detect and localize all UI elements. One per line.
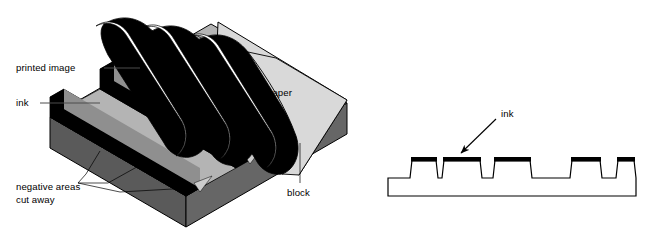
cross-section-ink-cap-4: [571, 157, 601, 162]
label-block: block: [287, 187, 310, 198]
label-ink-left: ink: [16, 97, 29, 108]
cross-section-ink-cap-5: [617, 157, 635, 162]
label-paper: paper: [267, 87, 293, 98]
label-negative-areas-line1: negative areas: [16, 181, 80, 192]
cross-section-ink-cap-3: [494, 157, 531, 162]
label-negative-areas-line2: cut away: [16, 194, 55, 205]
label-printed-image: printed image: [16, 62, 75, 73]
diagram-canvas: Relief printing: inked block transferrin…: [0, 0, 652, 233]
relief-printing-figure: Relief printing: inked block transferrin…: [0, 0, 652, 233]
cross-section-ink-cap-1: [411, 157, 437, 162]
cross-section-ink-cap-2: [443, 157, 481, 162]
label-ink-right: ink: [501, 108, 514, 119]
